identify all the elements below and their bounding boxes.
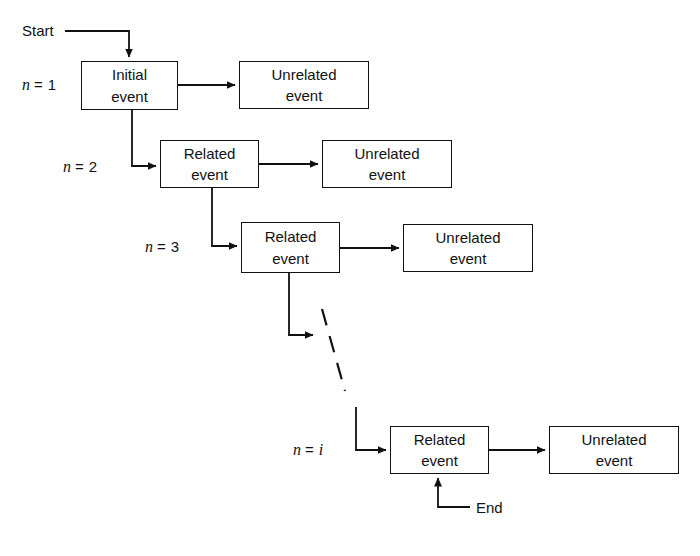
index-variable: n [63,158,71,175]
index-equals: = [75,158,84,175]
node-line-1: Unrelated [271,64,336,85]
node-unrelated-event-row-2[interactable]: Unrelated event [322,140,452,188]
connector-row2-to-row3 [212,188,237,246]
connector-row1-to-row2 [132,110,156,166]
index-label-row-1: n=1 [22,77,56,93]
node-unrelated-event-row-1[interactable]: Unrelated event [239,61,369,109]
node-line-1: Related [265,226,317,247]
node-line-1: Unrelated [581,429,646,450]
index-value: 1 [48,76,56,93]
node-line-1: Unrelated [435,227,500,248]
node-line-2: event [421,450,458,471]
node-line-2: event [272,248,309,269]
index-equals: = [305,441,314,458]
node-line-2: event [596,450,633,471]
continuation-dashed-line [322,309,345,391]
node-line-1: Unrelated [354,143,419,164]
index-variable: n [22,76,30,93]
index-equals: = [34,76,43,93]
index-equals: = [157,238,166,255]
index-label-row-3: n=3 [145,239,179,255]
index-label-row-i: n=i [293,442,323,458]
node-related-event-row-i[interactable]: Related event [390,426,489,474]
node-line-2: event [111,86,148,107]
node-line-2: event [286,85,323,106]
node-initial-event[interactable]: Initial event [81,61,178,110]
index-value: 2 [89,158,97,175]
node-related-event-row-3[interactable]: Related event [241,222,340,273]
node-related-event-row-2[interactable]: Related event [160,140,259,188]
connector-start-to-initial [65,31,129,57]
node-line-2: event [450,248,487,269]
start-label: Start [22,23,54,38]
index-variable: n [145,238,153,255]
node-line-1: Initial [112,64,147,85]
node-line-1: Related [414,429,466,450]
connector-row3-to-continuation [289,273,313,335]
node-line-2: event [191,164,228,185]
node-line-1: Related [184,143,236,164]
flowchart-diagram: Start End n=1 Initial event Unrelated ev… [0,0,700,556]
index-value: i [319,441,323,458]
node-line-2: event [369,164,406,185]
connector-continuation-to-rowi [356,407,386,450]
index-variable: n [293,441,301,458]
node-unrelated-event-row-i[interactable]: Unrelated event [549,426,679,474]
end-label: End [476,500,503,515]
connector-end-to-rowi [438,478,470,507]
index-label-row-2: n=2 [63,159,97,175]
index-value: 3 [171,238,179,255]
node-unrelated-event-row-3[interactable]: Unrelated event [403,224,533,272]
